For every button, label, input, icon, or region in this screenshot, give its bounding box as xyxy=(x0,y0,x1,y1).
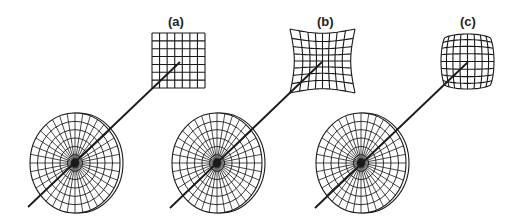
panel-label-b: (b) xyxy=(317,15,334,28)
panel-label-a: (a) xyxy=(168,15,184,28)
lens-none xyxy=(30,113,123,213)
grid-image-none xyxy=(152,33,205,88)
lens-pincushion xyxy=(172,113,265,213)
lens-distortion-diagram: (a) (b) (c) xyxy=(0,0,521,220)
panel-label-c: (c) xyxy=(460,15,476,28)
diagram-canvas xyxy=(0,0,521,220)
